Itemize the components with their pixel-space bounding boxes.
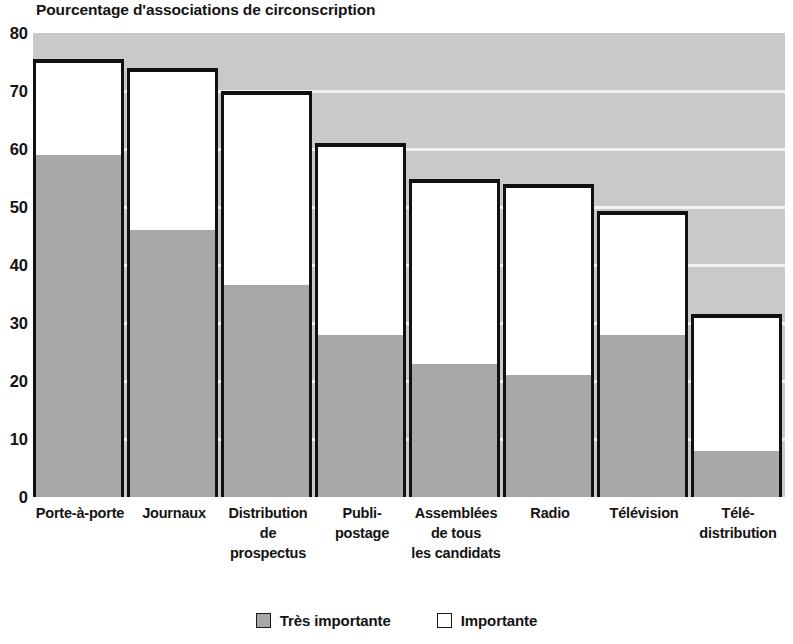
x-axis-label-6: Radio bbox=[503, 503, 597, 523]
x-axis-label-line: Publi- bbox=[315, 503, 409, 523]
x-axis-labels: Porte-à-porteJournauxDistributionde pros… bbox=[33, 503, 785, 583]
bar-segment-tres-importante bbox=[412, 364, 497, 497]
y-axis-tick-label: 20 bbox=[10, 373, 28, 390]
y-axis-tick-label: 0 bbox=[19, 489, 28, 506]
y-axis-tick-label: 60 bbox=[10, 141, 28, 158]
x-axis-label-1: Porte-à-porte bbox=[33, 503, 127, 523]
bar-4 bbox=[315, 143, 406, 497]
y-axis-tick-label: 30 bbox=[10, 315, 28, 332]
bar-segment-tres-importante bbox=[224, 285, 309, 497]
x-axis-label-5: Assembléesde tousles candidats bbox=[409, 503, 503, 563]
x-axis-label-7: Télévision bbox=[597, 503, 691, 523]
x-axis-label-line: Télévision bbox=[597, 503, 691, 523]
bar-segment-tres-importante bbox=[600, 335, 685, 497]
plot-area bbox=[33, 33, 785, 497]
legend-label: Importante bbox=[461, 612, 538, 629]
y-axis-tick-label: 10 bbox=[10, 431, 28, 448]
bar-segment-tres-importante bbox=[694, 451, 779, 497]
x-axis-label-line: Télé- bbox=[691, 503, 785, 523]
x-axis-label-line: Assemblées bbox=[409, 503, 503, 523]
bar-1 bbox=[33, 59, 124, 497]
x-axis-label-line: les candidats bbox=[409, 543, 503, 563]
legend-item-2[interactable]: Importante bbox=[437, 612, 538, 629]
x-axis-label-line: Journaux bbox=[127, 503, 221, 523]
bar-5 bbox=[409, 179, 500, 497]
chart-title: Pourcentage d'associations de circonscri… bbox=[36, 1, 375, 19]
bar-6 bbox=[503, 184, 594, 497]
bar-3 bbox=[221, 91, 312, 497]
bar-2 bbox=[127, 68, 218, 497]
legend-label: Très importante bbox=[280, 612, 391, 629]
x-axis-label-line: de prospectus bbox=[221, 523, 315, 563]
bar-7 bbox=[597, 211, 688, 497]
x-axis-label-3: Distributionde prospectus bbox=[221, 503, 315, 563]
chart-legend: Très importanteImportante bbox=[0, 612, 793, 629]
legend-swatch-icon bbox=[437, 613, 452, 628]
bars-layer bbox=[33, 33, 785, 497]
x-axis-label-8: Télé-distribution bbox=[691, 503, 785, 543]
bar-segment-tres-importante bbox=[130, 230, 215, 497]
x-axis-label-line: Distribution bbox=[221, 503, 315, 523]
y-axis-tick-label: 40 bbox=[10, 257, 28, 274]
x-axis-label-line: Porte-à-porte bbox=[33, 503, 127, 523]
x-axis-label-line: distribution bbox=[691, 523, 785, 543]
bar-segment-tres-importante bbox=[36, 155, 121, 497]
bar-8 bbox=[691, 314, 782, 497]
legend-item-1[interactable]: Très importante bbox=[256, 612, 391, 629]
x-axis-label-line: de tous bbox=[409, 523, 503, 543]
x-axis-label-4: Publi-postage bbox=[315, 503, 409, 543]
y-axis-tick-label: 80 bbox=[10, 25, 28, 42]
bar-segment-tres-importante bbox=[506, 375, 591, 497]
bar-segment-tres-importante bbox=[318, 335, 403, 497]
y-axis: 01020304050607080 bbox=[0, 0, 33, 644]
x-axis-label-2: Journaux bbox=[127, 503, 221, 523]
chart-container: Pourcentage d'associations de circonscri… bbox=[0, 0, 793, 644]
y-axis-tick-label: 50 bbox=[10, 199, 28, 216]
x-axis-label-line: postage bbox=[315, 523, 409, 543]
x-axis-label-line: Radio bbox=[503, 503, 597, 523]
legend-swatch-icon bbox=[256, 613, 271, 628]
y-axis-tick-label: 70 bbox=[10, 83, 28, 100]
